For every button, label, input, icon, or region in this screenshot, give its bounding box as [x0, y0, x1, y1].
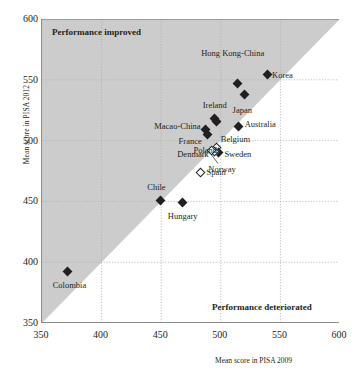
x-tick-600: 600 — [319, 329, 355, 340]
y-tick-400: 400 — [4, 256, 38, 267]
data-label-korea: Korea — [272, 71, 293, 80]
y-tick-550: 550 — [4, 74, 38, 85]
data-label-belgium: Belgium — [221, 135, 250, 144]
x-tick-350: 350 — [21, 329, 61, 340]
region-label-improved: Performance improved — [52, 27, 141, 37]
x-tick-400: 400 — [81, 329, 121, 340]
data-label-poland: Poland — [193, 146, 217, 155]
region-label-deteriorated: Performance deteriorated — [212, 302, 312, 312]
data-label-colombia: Colombia — [53, 281, 87, 290]
data-label-chile: Chile — [147, 183, 165, 192]
x-tick-450: 450 — [140, 329, 180, 340]
plot-background — [42, 19, 339, 323]
data-label-sweden: Sweden — [224, 150, 251, 159]
data-label-france: France — [179, 136, 202, 145]
data-label-japan: Japan — [233, 106, 252, 115]
data-label-macao-china: Macao-China — [154, 122, 200, 131]
y-tick-350: 350 — [4, 317, 38, 328]
x-axis-label: Mean score in PISA 2009 — [215, 356, 292, 365]
y-tick-450: 450 — [4, 195, 38, 206]
data-label-australia: Australia — [245, 119, 276, 128]
data-label-ireland: Ireland — [203, 101, 227, 110]
x-tick-500: 500 — [200, 329, 240, 340]
y-tick-600: 600 — [4, 13, 38, 24]
scatter-chart: Mean score in PISA 2012 Mean score in PI… — [0, 0, 355, 372]
data-label-hong-kong-china: Hong Kong-China — [201, 49, 264, 58]
y-tick-500: 500 — [4, 135, 38, 146]
plot-area: Performance improved Performance deterio… — [41, 19, 339, 323]
data-label-hungary: Hungary — [168, 212, 198, 221]
y-axis-ticks: 350400450500550600 — [0, 0, 38, 372]
data-label-spain: Spain — [206, 168, 225, 177]
x-tick-550: 550 — [259, 329, 299, 340]
